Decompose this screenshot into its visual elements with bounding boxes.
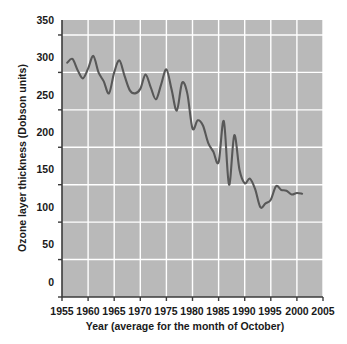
y-tick-50: 50 — [0, 238, 62, 250]
gridlines — [62, 20, 323, 297]
x-axis-title: Year (average for the month of October) — [40, 320, 330, 332]
y-tick-300: 300 — [0, 51, 62, 63]
y-tick-250: 250 — [0, 89, 62, 101]
y-tick-100: 100 — [0, 201, 62, 213]
ozone-chart-figure: Ozone layer thickness (Dobson units) 350… — [0, 0, 347, 344]
y-tick-200: 200 — [0, 126, 62, 138]
x-tick-2005: 2005 — [301, 301, 345, 314]
y-tick-350: 350 — [0, 14, 62, 26]
y-tick-150: 150 — [0, 163, 62, 175]
plot-canvas — [62, 20, 323, 297]
plot-area — [62, 20, 323, 297]
y-tick-0: 0 — [0, 276, 62, 288]
